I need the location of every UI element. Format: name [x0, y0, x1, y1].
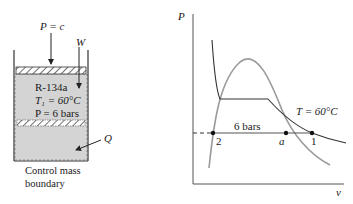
point-1-label: 1 [311, 136, 317, 147]
substance-label: R-134a [35, 82, 67, 93]
isotherm-label: T = 60°C [296, 106, 338, 117]
piston [16, 67, 86, 74]
paddle-plate [17, 120, 85, 126]
point-a-label: a [279, 136, 285, 147]
heat-label: Q [104, 133, 112, 144]
temperature-state-label: T₁ = 60°C [35, 95, 81, 106]
point-2-label: 2 [216, 136, 222, 147]
work-label: W [76, 37, 85, 48]
boundary-label-line1: Control mass [25, 166, 81, 177]
boundary-label-line2: boundary [25, 179, 65, 190]
x-axis-label: v [336, 187, 341, 198]
isobar-label: 6 bars [234, 121, 261, 132]
pv-diagram [193, 14, 346, 184]
y-axis-label: P [178, 11, 185, 22]
piston-pressure-label: P = c [40, 21, 64, 32]
pressure-state-label: P = 6 bars [35, 108, 79, 119]
isotherm-60C [212, 40, 346, 143]
state-point-2 [211, 131, 215, 135]
